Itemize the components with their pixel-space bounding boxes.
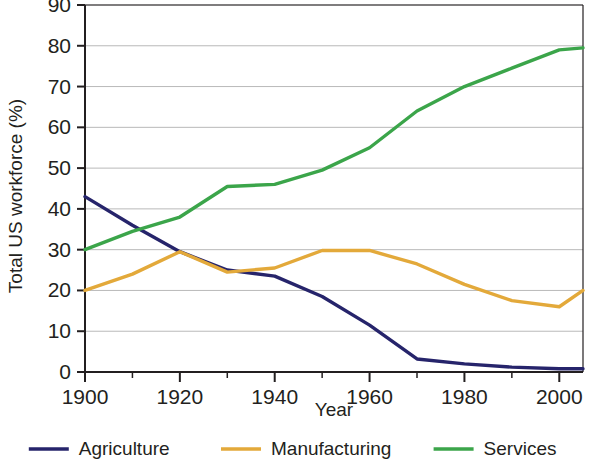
axis-lines [85, 5, 583, 372]
y-tick-label-20: 20 [48, 278, 71, 301]
legend-label-manufacturing: Manufacturing [271, 438, 391, 459]
x-tick-label-1960: 1960 [346, 385, 393, 408]
y-tick-label-40: 40 [48, 197, 71, 220]
line-chart: 0102030405060708090 19001920194019601980… [0, 0, 594, 476]
y-tick-label-10: 10 [48, 319, 71, 342]
chart-svg: 0102030405060708090 19001920194019601980… [0, 0, 594, 476]
series-line-services [85, 48, 583, 250]
y-tick-label-50: 50 [48, 156, 71, 179]
y-tick-label-80: 80 [48, 34, 71, 57]
y-tick-label-60: 60 [48, 115, 71, 138]
x-axis-title: Year [315, 399, 354, 420]
chart-legend: AgricultureManufacturingServices [29, 438, 557, 459]
x-tick-label-1900: 1900 [62, 385, 109, 408]
x-tick-label-1920: 1920 [156, 385, 203, 408]
y-tick-label-0: 0 [59, 360, 71, 383]
x-tick-label-1980: 1980 [441, 385, 488, 408]
y-axis-title: Total US workforce (%) [5, 99, 26, 293]
legend-label-agriculture: Agriculture [79, 438, 170, 459]
series-line-manufacturing [85, 250, 583, 306]
x-tick-label-1940: 1940 [251, 385, 298, 408]
legend-label-services: Services [484, 438, 557, 459]
y-tick-labels: 0102030405060708090 [48, 0, 71, 383]
x-axis-ticks [85, 372, 559, 382]
data-series-group [85, 48, 583, 369]
chart-canvas: 0102030405060708090 19001920194019601980… [0, 0, 594, 476]
gridlines [85, 5, 583, 331]
y-tick-label-70: 70 [48, 75, 71, 98]
y-tick-label-90: 90 [48, 0, 71, 16]
y-axis-ticks [77, 5, 85, 372]
y-tick-label-30: 30 [48, 238, 71, 261]
x-tick-label-2000: 2000 [536, 385, 583, 408]
